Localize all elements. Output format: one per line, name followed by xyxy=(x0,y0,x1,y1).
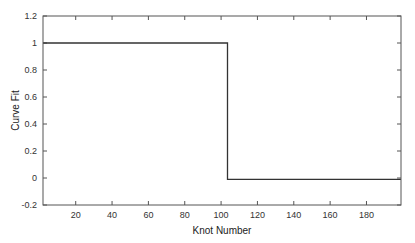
axes-frame xyxy=(43,16,401,205)
x-tick-label: 40 xyxy=(107,210,117,220)
series-layer xyxy=(43,43,401,179)
y-tick-label: 0.4 xyxy=(24,119,37,129)
x-tick-label: 20 xyxy=(71,210,81,220)
x-tick-label: 160 xyxy=(323,210,338,220)
y-tick-label: 0.6 xyxy=(24,92,37,102)
ticks xyxy=(43,16,401,205)
x-tick-label: 60 xyxy=(143,210,153,220)
y-tick-label: 1 xyxy=(32,38,37,48)
y-tick-label: 0.2 xyxy=(24,146,37,156)
y-axis-label: Curve Fit xyxy=(10,90,21,131)
series-line-curve-fit xyxy=(43,43,401,179)
y-tick-label: 0 xyxy=(32,173,37,183)
y-tick-label: -0.2 xyxy=(21,200,37,210)
x-tick-label: 80 xyxy=(180,210,190,220)
y-tick-label: 1.2 xyxy=(24,11,37,21)
x-tick-label: 180 xyxy=(359,210,374,220)
x-tick-label: 100 xyxy=(214,210,229,220)
chart: 20406080100120140160180-0.200.20.40.60.8… xyxy=(0,0,415,243)
y-tick-label: 0.8 xyxy=(24,65,37,75)
x-axis-label: Knot Number xyxy=(193,225,253,236)
x-tick-label: 120 xyxy=(250,210,265,220)
x-tick-label: 140 xyxy=(286,210,301,220)
